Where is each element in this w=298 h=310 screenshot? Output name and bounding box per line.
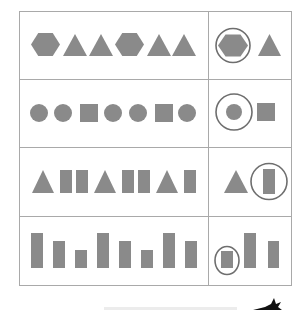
rectangle-shape bbox=[122, 170, 134, 193]
answer-choice-rectangle-shape[interactable] bbox=[268, 241, 279, 268]
square-shape bbox=[155, 104, 173, 122]
answer-choice-hexagon-shape[interactable] bbox=[218, 35, 248, 57]
ink-splat-icon bbox=[253, 298, 282, 310]
triangle-shape bbox=[147, 34, 171, 56]
rectangle-shape bbox=[119, 241, 131, 268]
pattern-rows bbox=[30, 29, 287, 275]
rectangle-shape bbox=[76, 170, 88, 193]
rectangle-shape bbox=[141, 250, 153, 268]
triangle-shape bbox=[172, 34, 196, 56]
triangle-shape bbox=[63, 34, 87, 56]
triangle-shape bbox=[156, 170, 178, 193]
circle-shape bbox=[129, 104, 147, 122]
rectangle-shape bbox=[185, 241, 197, 268]
answer-choice-triangle-shape[interactable] bbox=[258, 34, 281, 56]
worksheet-footer bbox=[104, 298, 282, 310]
rectangle-shape bbox=[97, 233, 109, 268]
answer-choices bbox=[215, 233, 279, 275]
rectangle-shape bbox=[75, 250, 87, 268]
rectangle-shape bbox=[163, 233, 175, 268]
rectangle-shape bbox=[31, 233, 43, 268]
pattern-row-1-hexagon-triangle-pattern bbox=[31, 29, 281, 63]
square-shape bbox=[80, 104, 98, 122]
rectangle-shape bbox=[138, 170, 150, 193]
pattern-sequence bbox=[30, 104, 196, 122]
hexagon-shape bbox=[31, 33, 60, 56]
answer-choices bbox=[216, 29, 281, 63]
circle-shape bbox=[54, 104, 72, 122]
answer-choices bbox=[224, 164, 287, 200]
circle-shape bbox=[178, 104, 196, 122]
triangle-shape bbox=[32, 170, 54, 193]
answer-choice-rectangle-shape[interactable] bbox=[244, 233, 256, 268]
circle-shape bbox=[104, 104, 122, 122]
pattern-row-4-bar-height-pattern bbox=[31, 233, 279, 275]
answer-choice-circle-shape[interactable] bbox=[226, 104, 242, 120]
answer-choice-square-shape[interactable] bbox=[257, 103, 275, 121]
circle-shape bbox=[30, 104, 48, 122]
answer-choice-rectangle-shape[interactable] bbox=[221, 251, 233, 268]
answer-choice-rectangle-shape[interactable] bbox=[263, 169, 275, 194]
rectangle-shape bbox=[184, 170, 196, 193]
triangle-shape bbox=[94, 170, 116, 193]
pattern-row-2-circle-square-pattern bbox=[30, 94, 275, 130]
answer-choice-triangle-shape[interactable] bbox=[224, 170, 248, 193]
rectangle-shape bbox=[53, 241, 65, 268]
pattern-row-3-triangle-rectangle-pattern bbox=[32, 164, 287, 200]
answer-choices bbox=[216, 94, 275, 130]
hexagon-shape bbox=[115, 33, 144, 56]
pattern-sequence bbox=[32, 170, 196, 193]
triangle-shape bbox=[89, 34, 113, 56]
pattern-worksheet: Pattern completion worksheet bbox=[0, 0, 298, 310]
rectangle-shape bbox=[60, 170, 72, 193]
pattern-sequence bbox=[31, 33, 196, 56]
pattern-sequence bbox=[31, 233, 197, 268]
